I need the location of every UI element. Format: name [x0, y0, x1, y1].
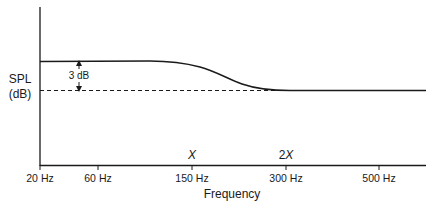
x-tick-label: 500 Hz [362, 172, 395, 184]
x-tick-label: 20 Hz [26, 172, 53, 184]
y-axis-title-line2: (dB) [9, 87, 32, 101]
x-axis-title: Frequency [204, 187, 261, 201]
spl-frequency-chart: 20 Hz 60 Hz 150 Hz 300 Hz 500 Hz Frequen… [0, 0, 440, 211]
marker-2x: 2X [279, 148, 295, 162]
chart-svg: 20 Hz 60 Hz 150 Hz 300 Hz 500 Hz Frequen… [0, 0, 440, 211]
x-tick-label: 300 Hz [269, 172, 302, 184]
marker-x: X [187, 148, 197, 162]
x-tick-label: 150 Hz [175, 172, 208, 184]
three-db-annotation: 3 dB [69, 70, 90, 81]
x-tick-label: 60 Hz [84, 172, 111, 184]
y-axis-title-line1: SPL [9, 72, 32, 86]
spl-response-curve [40, 61, 426, 91]
marker-2x-variable: X [284, 148, 294, 162]
